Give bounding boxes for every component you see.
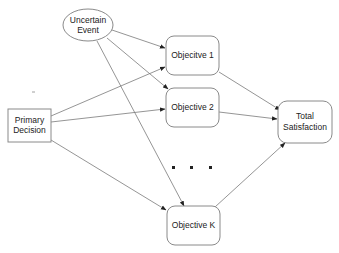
ellipsis-dot — [190, 166, 193, 169]
node-total-satisfaction-label-line1: Total — [296, 111, 314, 121]
node-total-satisfaction[interactable]: Total Satisfaction — [278, 101, 332, 143]
edge-primary-to-objk — [51, 140, 166, 210]
edge-primary-to-obj1 — [51, 67, 165, 116]
ellipsis-dot — [209, 166, 212, 169]
edge-obj2-to-total — [219, 112, 277, 119]
edge-obj1-to-total — [219, 72, 280, 110]
node-objective-2-label: Objective 2 — [171, 102, 214, 112]
node-uncertain-event[interactable]: Uncertain Event — [63, 9, 113, 41]
influence-diagram: Uncertain Event Primary Decision Objecit… — [0, 0, 339, 253]
node-objective-2[interactable]: Objective 2 — [166, 88, 219, 127]
node-total-satisfaction-label-line2: Satisfaction — [283, 122, 327, 132]
node-uncertain-event-label-line2: Event — [77, 25, 99, 35]
edge-primary-to-obj2 — [51, 109, 165, 122]
node-objective-k[interactable]: Objective K — [167, 206, 220, 245]
ellipsis-dot — [172, 166, 175, 169]
edge-uncertain-to-obj1 — [112, 30, 165, 48]
node-primary-decision-label-line2: Decision — [13, 125, 46, 135]
node-primary-decision[interactable]: Primary Decision — [8, 109, 51, 142]
node-objective-1[interactable]: Objecitve 1 — [166, 36, 219, 75]
node-primary-decision-label-line1: Primary — [15, 115, 45, 125]
node-uncertain-event-label-line1: Uncertain — [70, 15, 107, 25]
node-objective-1-label: Objecitve 1 — [171, 50, 214, 60]
edge-objk-to-total — [215, 143, 285, 207]
node-objective-k-label: Objective K — [172, 220, 216, 230]
ellipsis-dots — [172, 166, 212, 169]
